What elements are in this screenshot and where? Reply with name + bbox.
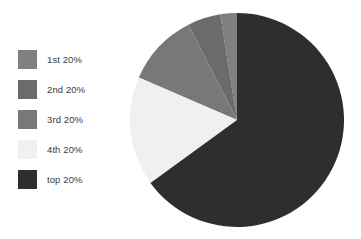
legend-swatch-3rd-20 [18,110,37,129]
legend-item-3rd-20[interactable]: 3rd 20% [18,104,128,134]
legend-swatch-top-20 [18,170,37,189]
legend-label-3rd-20: 3rd 20% [47,114,83,125]
chart-legend: 1st 20% 2nd 20% 3rd 20% 4th 20% top 20% [18,44,128,194]
pie-chart-figure: 1st 20% 2nd 20% 3rd 20% 4th 20% top 20% [0,0,361,239]
legend-label-1st-20: 1st 20% [47,54,82,65]
legend-label-2nd-20: 2nd 20% [47,84,85,95]
legend-swatch-4th-20 [18,140,37,159]
pie-svg [129,12,345,228]
legend-item-2nd-20[interactable]: 2nd 20% [18,74,128,104]
legend-item-1st-20[interactable]: 1st 20% [18,44,128,74]
legend-swatch-2nd-20 [18,80,37,99]
legend-swatch-1st-20 [18,50,37,69]
pie-slice-group [130,13,344,227]
legend-item-4th-20[interactable]: 4th 20% [18,134,128,164]
legend-item-top-20[interactable]: top 20% [18,164,128,194]
pie-plot-area [129,12,345,228]
legend-label-top-20: top 20% [47,174,83,185]
legend-label-4th-20: 4th 20% [47,144,83,155]
